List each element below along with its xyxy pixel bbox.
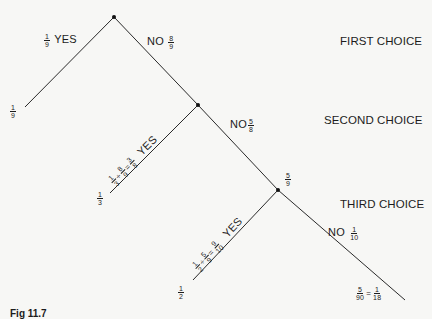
third-yes-leaf: 12 [177,285,185,300]
branch-first-no [114,17,198,105]
node-3 [276,188,280,192]
fraction: 19 [44,33,50,48]
first-no-label: NO 89 [147,35,175,50]
node-3-value: 59 [284,172,292,187]
node-2 [196,103,200,107]
level-label-first: FIRST CHOICE [340,35,422,47]
branch-first-yes [25,17,114,107]
third-no-label: NO 110 [328,226,360,241]
level-label-second: SECOND CHOICE [324,114,422,126]
final-leaf: 590=118 [354,286,383,301]
figure-caption: Fig 11.7 [10,308,47,319]
node-1 [112,15,116,19]
second-no-label: NO58 [230,118,255,133]
first-yes-label: 19 YES [43,33,77,48]
second-yes-leaf: 13 [96,191,104,206]
level-label-third: THIRD CHOICE [340,198,424,210]
first-yes-leaf: 19 [9,104,17,119]
